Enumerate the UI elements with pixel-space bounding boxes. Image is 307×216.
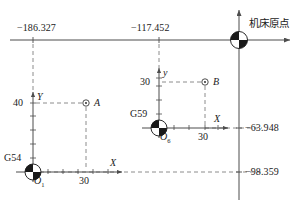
cnc-coordinate-diagram: 机床原点 −186.327 −117.452 −63.948 −98.359 G… (0, 0, 307, 216)
g54-y-tick-label: 40 (13, 98, 23, 108)
g54-y-offset-label: −98.359 (245, 167, 279, 177)
g59-x-axis-label: X (214, 114, 220, 124)
g59-x-offset-label: −117.452 (131, 23, 170, 33)
g59-y-axis-label: y (163, 68, 167, 78)
g59-origin-label: O6 (160, 132, 170, 145)
g54-origin-label: O1 (34, 176, 44, 189)
g54-x-offset-label: −186.327 (17, 23, 56, 33)
machine-origin-symbol (231, 32, 248, 49)
g59-origin-subscript: 6 (167, 137, 170, 144)
g54-y-axis-label: Y (37, 92, 43, 102)
point-a-marker (83, 100, 89, 106)
point-b-label: B (213, 77, 219, 87)
point-b-marker (202, 79, 208, 85)
g54-code-label: G54 (4, 153, 21, 163)
g59-y-tick-label: 30 (140, 77, 150, 87)
g59-y-offset-label: −63.948 (245, 123, 279, 133)
g59-code-label: G59 (130, 109, 147, 119)
point-a-label: A (94, 98, 100, 108)
machine-origin-label: 机床原点 (249, 18, 289, 29)
g59-x-tick-label: 30 (198, 132, 208, 142)
g54-x-axis-label: X (110, 158, 116, 168)
g54-origin-subscript: 1 (41, 181, 44, 188)
g54-x-tick-label: 30 (79, 176, 89, 186)
